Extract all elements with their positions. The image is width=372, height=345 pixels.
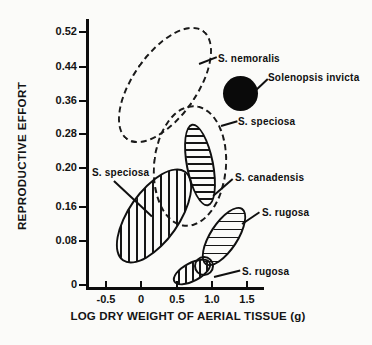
y-tick [79, 133, 87, 135]
y-tick-label: 0.36 [40, 94, 77, 106]
label-solenopsis-invicta: Solenopsis invicta [268, 72, 359, 83]
x-tick-label: 0 [122, 293, 160, 305]
y-tick [79, 206, 87, 208]
y-tick [79, 31, 87, 33]
y-tick-label: 0.52 [40, 25, 77, 37]
label-s-canadensis: S. canadensis [235, 172, 304, 183]
x-tick [246, 281, 248, 288]
reproductive-effort-chart: REPRODUCTIVE EFFORT LOG DRY WEIGHT OF AE… [0, 0, 372, 345]
circle-solenopsis-invicta [223, 76, 258, 111]
label-s-speciosa-dashed: S. speciosa [238, 116, 295, 127]
x-axis-title: LOG DRY WEIGHT OF AERIAL TISSUE (g) [10, 310, 366, 322]
y-tick [79, 167, 87, 169]
y-axis-title: REPRODUCTIVE EFFORT [16, 82, 28, 230]
y-axis-line [86, 19, 89, 290]
label-s-rugosa-small: S. rugosa [242, 266, 289, 277]
label-s-rugosa-large: S. rugosa [262, 207, 309, 218]
y-tick [79, 66, 87, 68]
x-tick [211, 281, 213, 288]
x-axis-line [86, 287, 264, 290]
y-tick-label: 0.44 [40, 60, 77, 72]
label-s-speciosa-hatched: S. speciosa [92, 167, 149, 178]
y-tick [79, 240, 87, 242]
y-tick-label: 0.08 [40, 234, 77, 246]
y-tick [79, 284, 87, 286]
y-tick-label: 0.16 [40, 200, 77, 212]
label-s-nemoralis: S. nemoralis [218, 53, 280, 64]
y-tick-label: 0.28 [40, 127, 77, 139]
y-tick [79, 100, 87, 102]
y-tick-label: 0 [40, 278, 77, 290]
ptr-s-rugosa-small [214, 269, 241, 277]
x-tick-label: 0.5 [158, 293, 196, 305]
y-tick-label: 0.20 [40, 161, 77, 173]
circle-rugosa-overlap-circle [194, 256, 214, 276]
ptr-solenopsis-invicta [255, 78, 268, 90]
x-tick-label: -0.5 [87, 293, 125, 305]
x-tick-label: 1.0 [193, 293, 231, 305]
x-tick [140, 281, 142, 288]
x-tick [105, 281, 107, 288]
x-tick-label: 1.5 [228, 293, 266, 305]
ptr-s-speciosa-dashed [221, 120, 238, 126]
